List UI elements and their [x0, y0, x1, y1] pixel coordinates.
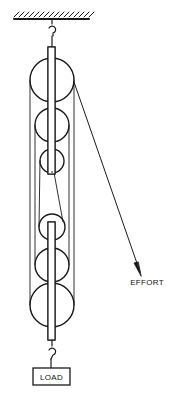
effort-rope: [74, 82, 141, 276]
load-label: LOAD: [40, 373, 63, 382]
ceiling: [14, 12, 94, 19]
effort-arrow-icon: [134, 262, 141, 276]
effort-label: EFFORT: [130, 278, 164, 287]
pulley-diagram: LOAD EFFORT: [0, 0, 173, 394]
bottom-hook-icon: [49, 340, 56, 368]
top-hook-icon: [49, 19, 56, 47]
